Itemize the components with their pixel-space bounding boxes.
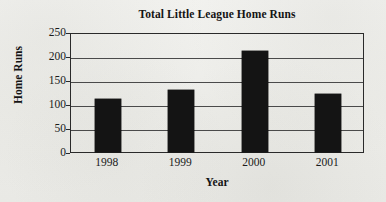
x-axis-tick-label: 2000 (224, 157, 284, 169)
bar (242, 51, 268, 152)
y-axis-tick-label: 0 (32, 147, 66, 159)
y-axis-title: Home Runs (12, 35, 24, 115)
bar (95, 99, 121, 152)
x-axis-title: Year (70, 176, 364, 188)
y-axis-tick-mark (66, 105, 70, 106)
y-axis-tick-mark (66, 153, 70, 154)
y-axis-tick-label: 200 (32, 51, 66, 63)
bar (315, 94, 341, 152)
y-axis-tick-label: 250 (32, 27, 66, 39)
y-axis-tick-mark (66, 57, 70, 58)
y-axis-tick-mark (66, 33, 70, 34)
x-axis-tick-label: 2001 (297, 157, 357, 169)
plot-area (70, 33, 364, 153)
gridline (71, 58, 363, 59)
x-axis-tick-label: 1999 (150, 157, 210, 169)
y-axis-tick-labels: 050100150200250 (28, 33, 66, 153)
x-axis-tick-label: 1998 (77, 157, 137, 169)
y-axis-tick-mark (66, 81, 70, 82)
bar (168, 90, 194, 152)
y-axis-tick-label: 100 (32, 99, 66, 111)
bar-chart: Total Little League Home Runs Home Runs … (0, 0, 386, 202)
y-axis-tick-mark (66, 129, 70, 130)
gridline (71, 82, 363, 83)
y-axis-tick-label: 50 (32, 123, 66, 135)
chart-title: Total Little League Home Runs (70, 8, 364, 20)
y-axis-tick-label: 150 (32, 75, 66, 87)
